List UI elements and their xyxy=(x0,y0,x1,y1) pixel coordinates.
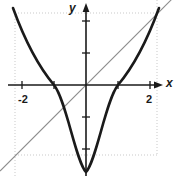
y-axis-label: y xyxy=(68,1,77,15)
graph-figure: y x -2 2 xyxy=(0,0,175,176)
y-axis xyxy=(82,3,90,176)
x-tick-label--2: -2 xyxy=(18,93,28,105)
plot-canvas: y x -2 2 xyxy=(0,0,175,176)
x-axis-arrowhead xyxy=(154,82,163,89)
x-axis-label: x xyxy=(165,76,174,90)
y-axis-arrowhead xyxy=(83,3,90,12)
x-tick-label-2: 2 xyxy=(146,93,152,105)
